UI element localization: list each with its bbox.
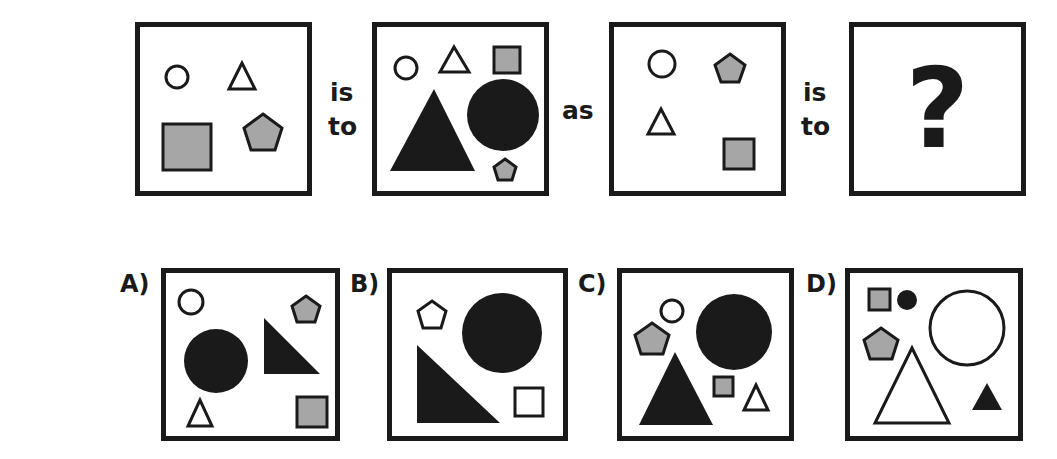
small-gray-pentagon [635,323,669,354]
small-circle-outline [166,66,188,88]
gray-square [494,47,520,73]
small-circle-outline [395,57,417,79]
large-black-triangle [639,352,713,425]
small-triangle-outline [229,63,255,89]
small-circle-outline [649,51,675,77]
answer-placeholder-panel: ? [849,22,1026,196]
small-pentagon-outline [418,301,446,328]
connector-is-1: is [330,78,353,108]
small-gray-square [724,139,754,169]
connector-to-1: to [328,112,357,142]
large-circle-outline [930,291,1004,365]
large-black-circle [467,79,539,151]
connector-as: as [562,96,594,126]
small-gray-square [869,289,890,310]
large-black-circle [462,293,542,373]
small-square-outline [515,388,543,416]
option-c-panel[interactable] [617,268,794,441]
small-black-triangle [972,383,1002,410]
small-triangle-outline [440,47,469,72]
large-black-triangle [390,89,475,171]
small-triangle-outline [648,109,674,134]
black-right-triangle [264,318,320,374]
small-gray-pentagon [494,159,516,180]
analogy-panel-2 [372,22,549,196]
question-mark: ? [854,27,1021,191]
option-label-b: B) [350,270,379,298]
small-triangle-outline [744,385,768,410]
gray-pentagon [244,114,282,150]
small-gray-pentagon [864,328,898,359]
option-b-panel[interactable] [387,268,568,441]
connector-is-2: is [803,78,826,108]
option-label-a: A) [120,270,150,298]
option-d-panel[interactable] [845,268,1023,441]
option-label-c: C) [578,270,607,298]
small-gray-pentagon [292,296,320,322]
large-black-circle [184,329,248,393]
small-gray-square [714,377,733,396]
analogy-panel-1 [135,22,312,196]
option-label-d: D) [806,270,837,298]
small-gray-pentagon [715,54,745,82]
small-triangle-outline [188,400,212,426]
small-circle-outline [179,290,203,314]
option-a-panel[interactable] [161,268,340,441]
small-black-circle [897,290,917,310]
large-black-circle [696,294,772,370]
gray-square [163,124,211,170]
small-circle-outline [661,300,683,322]
small-gray-square [297,397,327,427]
connector-to-2: to [801,112,830,142]
analogy-panel-3 [609,22,786,196]
